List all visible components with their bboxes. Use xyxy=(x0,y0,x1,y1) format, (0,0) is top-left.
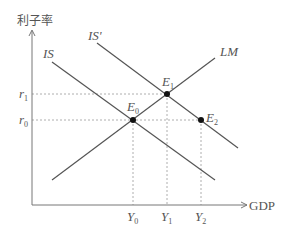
y0-label: Y0 xyxy=(127,210,138,226)
guide-lines xyxy=(32,94,201,205)
y2-sub: 2 xyxy=(202,217,206,226)
point-e0 xyxy=(130,117,136,123)
e2-main: E xyxy=(206,110,214,125)
y-axis-label: 利子率 xyxy=(17,15,53,27)
point-e2 xyxy=(198,117,204,123)
e2-sub: 2 xyxy=(214,118,218,127)
e1-sub: 1 xyxy=(170,82,174,91)
y1-label: Y1 xyxy=(161,210,172,226)
e0-label: E0 xyxy=(127,100,139,116)
y1-sub: 1 xyxy=(168,217,172,226)
e1-main: E xyxy=(162,74,170,89)
is-prime-label: IS' xyxy=(88,29,102,42)
x-axis-label: GDP xyxy=(249,199,275,212)
point-e1 xyxy=(164,91,170,97)
r1-label: r1 xyxy=(19,87,28,103)
e1-label: E1 xyxy=(162,75,174,91)
y2-label: Y2 xyxy=(195,210,206,226)
r1-sub: 1 xyxy=(24,94,28,103)
e0-sub: 0 xyxy=(135,107,139,116)
y0-sub: 0 xyxy=(134,217,138,226)
lm-label: LM xyxy=(220,45,238,58)
e2-label: E2 xyxy=(206,111,218,127)
e0-main: E xyxy=(127,99,135,114)
r0-label: r0 xyxy=(19,113,28,129)
r0-sub: 0 xyxy=(24,120,28,129)
islm-diagram xyxy=(0,0,285,232)
is-label: IS xyxy=(43,47,54,60)
